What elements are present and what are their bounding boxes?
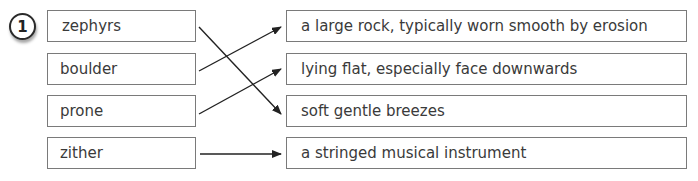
arrow-zephyrs-to-breezes [199, 27, 281, 114]
arrow-prone-to-lying [199, 69, 281, 114]
arrow-boulder-to-rock [199, 27, 281, 71]
match-arrows [0, 0, 698, 181]
